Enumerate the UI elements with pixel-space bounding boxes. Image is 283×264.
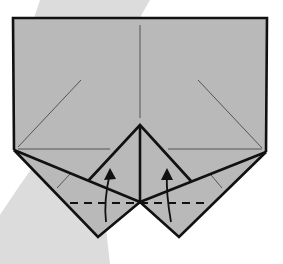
origami-diagram <box>0 0 283 264</box>
diagram-canvas <box>0 0 283 264</box>
